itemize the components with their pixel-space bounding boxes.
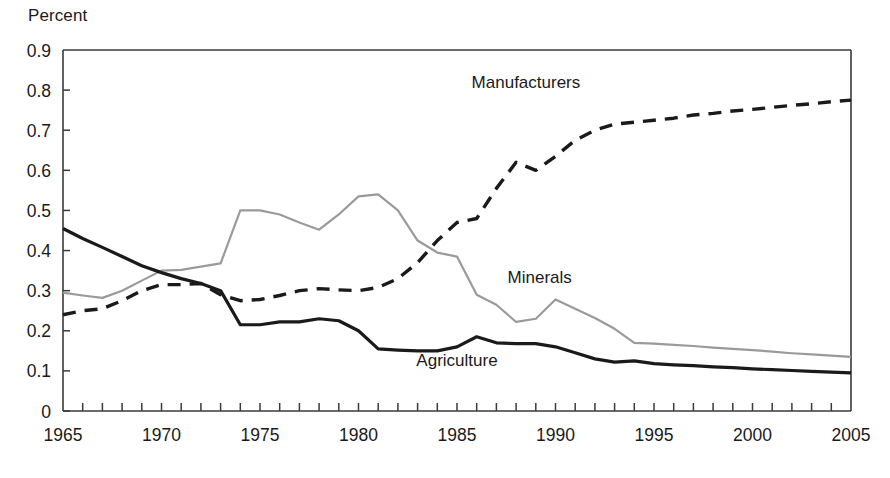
y-axis-group: 0.90.80.70.60.50.40.30.20.10 xyxy=(27,41,70,422)
x-tick-label: 2005 xyxy=(832,425,871,445)
x-tick-label: 1995 xyxy=(635,425,674,445)
x-tick-label: 1990 xyxy=(536,425,575,445)
x-tick-label: 1985 xyxy=(438,425,477,445)
x-tick-label: 1965 xyxy=(44,425,83,445)
chart-container: Percent 0.90.80.70.60.50.40.30.20.10 196… xyxy=(0,0,890,478)
y-tick-label: 0.6 xyxy=(27,161,51,181)
series-line-minerals xyxy=(63,194,851,356)
line-chart-plot: 0.90.80.70.60.50.40.30.20.10 19651970197… xyxy=(0,0,890,478)
y-tick-label: 0.3 xyxy=(27,281,51,301)
x-tick-group: 196519701975198019851990199520002005 xyxy=(44,403,871,445)
x-tick-label: 2000 xyxy=(733,425,772,445)
x-tick-label: 1980 xyxy=(339,425,378,445)
data-series-group xyxy=(63,100,851,373)
y-tick-label: 0.8 xyxy=(27,81,51,101)
y-tick-label: 0.5 xyxy=(27,201,51,221)
y-tick-label: 0 xyxy=(41,402,51,422)
x-tick-label: 1975 xyxy=(241,425,280,445)
series-line-manufacturers xyxy=(63,100,851,315)
y-tick-label: 0.9 xyxy=(27,41,51,61)
y-tick-label: 0.4 xyxy=(27,241,52,261)
series-label-agriculture: Agriculture xyxy=(416,351,497,370)
x-tick-label: 1970 xyxy=(142,425,181,445)
series-annotation-group: ManufacturersMineralsAgriculture xyxy=(416,73,580,370)
x-axis-group: 196519701975198019851990199520002005 xyxy=(44,50,871,445)
y-tick-label: 0.7 xyxy=(27,121,51,141)
y-tick-label: 0.1 xyxy=(27,361,51,381)
series-label-manufacturers: Manufacturers xyxy=(472,73,581,92)
series-label-minerals: Minerals xyxy=(508,268,572,287)
y-tick-label: 0.2 xyxy=(27,321,51,341)
